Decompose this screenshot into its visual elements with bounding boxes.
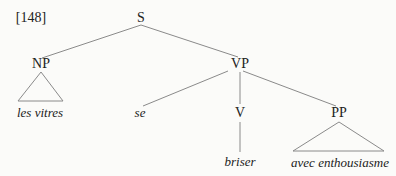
node-vp: VP (231, 57, 249, 71)
node-s: S (137, 11, 145, 25)
leaf-les-vitres: les vitres (17, 106, 63, 120)
node-v: V (235, 106, 245, 120)
node-np: NP (32, 57, 50, 71)
edge-s-vp (141, 25, 238, 57)
edge-vp-se (143, 71, 228, 106)
np-triangle (18, 72, 63, 101)
leaf-briser: briser (224, 155, 255, 169)
node-pp: PP (331, 106, 347, 120)
tree-edges (0, 0, 396, 176)
leaf-se: se (135, 106, 146, 120)
example-number: [148] (16, 11, 46, 25)
edge-s-np (42, 25, 141, 58)
pp-triangle (293, 122, 384, 151)
edge-vp-pp (243, 71, 336, 106)
leaf-avec-enthousiasme: avec enthousiasme (291, 156, 389, 170)
